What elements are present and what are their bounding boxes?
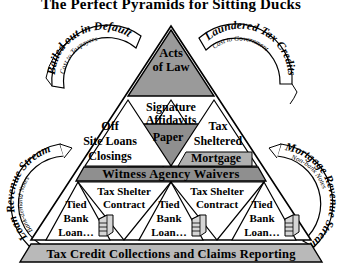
tier2-left-label-line1: Off (101, 119, 119, 133)
tier2-right-label-line3: Mortgage (191, 151, 242, 165)
tier3-contract-2-line2: Contract (196, 198, 238, 210)
diagram-canvas: The Perfect Pyramids for Sitting Ducks B… (0, 0, 342, 268)
tier3-contract-2: Tax Shelter Contract (190, 185, 244, 210)
server-building-icon (99, 215, 113, 236)
tier2-left-label-line3: Closings (88, 149, 132, 163)
tier3-loan-3-line1: Tied (251, 198, 272, 210)
apex-label-line1: Acts (159, 46, 183, 60)
tier3-loan-1-line3: Loan… (58, 226, 93, 238)
tier2-left-label-line2: Site Loans (83, 134, 137, 148)
tier3-loan-2-line3: Loan… (151, 226, 186, 238)
tier3-contract-2-line1: Tax Shelter (190, 185, 244, 197)
tier2-signature-label: Signature (146, 100, 196, 114)
base-banner-label: Tax Credit Collections and Claims Report… (46, 247, 296, 261)
tier3-contract-1-line2: Contract (103, 198, 145, 210)
tier3-loan-1-line2: Bank (63, 212, 89, 224)
pyramid-diagram: The Perfect Pyramids for Sitting Ducks B… (0, 0, 342, 268)
tier3-loan-3-line3: Loan… (244, 226, 279, 238)
tier2-paper-label: Paper (153, 130, 184, 144)
tier3-contract-1: Tax Shelter Contract (97, 185, 151, 210)
tier3-loan-2-line1: Tied (158, 198, 179, 210)
tier3-contract-1-line1: Tax Shelter (97, 185, 151, 197)
tier3-loan-2-line2: Bank (156, 212, 182, 224)
server-building-icon (285, 215, 299, 236)
page-title: The Perfect Pyramids for Sitting Ducks (41, 0, 301, 12)
tier3-loan-1-line1: Tied (65, 198, 86, 210)
tier2-right-label-line2: Sheltered (194, 134, 243, 148)
apex-label-line2: of Law (152, 60, 189, 74)
server-building-icon (192, 215, 206, 236)
tier2-affidavits-label: Affidavits (146, 113, 197, 127)
tier3-loan-3-line2: Bank (249, 212, 275, 224)
tier2-right-label-line1: Tax (209, 119, 228, 133)
witness-band-label: Witness Agency Waivers (102, 167, 239, 181)
